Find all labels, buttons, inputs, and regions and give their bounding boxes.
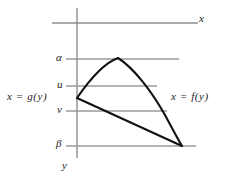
- curve-f-of-y: [77, 58, 182, 146]
- u-tick-label: u: [57, 79, 63, 90]
- right-curve-label: x = f(y): [171, 91, 209, 102]
- x-axis-label: x: [199, 13, 204, 24]
- beta-tick-label: β: [56, 138, 61, 149]
- y-axis-label: y: [62, 160, 67, 171]
- v-tick-label: v: [57, 104, 62, 115]
- curve-g-of-y: [77, 98, 182, 146]
- alpha-tick-label: α: [56, 52, 62, 63]
- left-curve-label: x = g(y): [7, 91, 47, 102]
- figure-container: α u v β x y x = g(y) x = f(y): [0, 0, 225, 183]
